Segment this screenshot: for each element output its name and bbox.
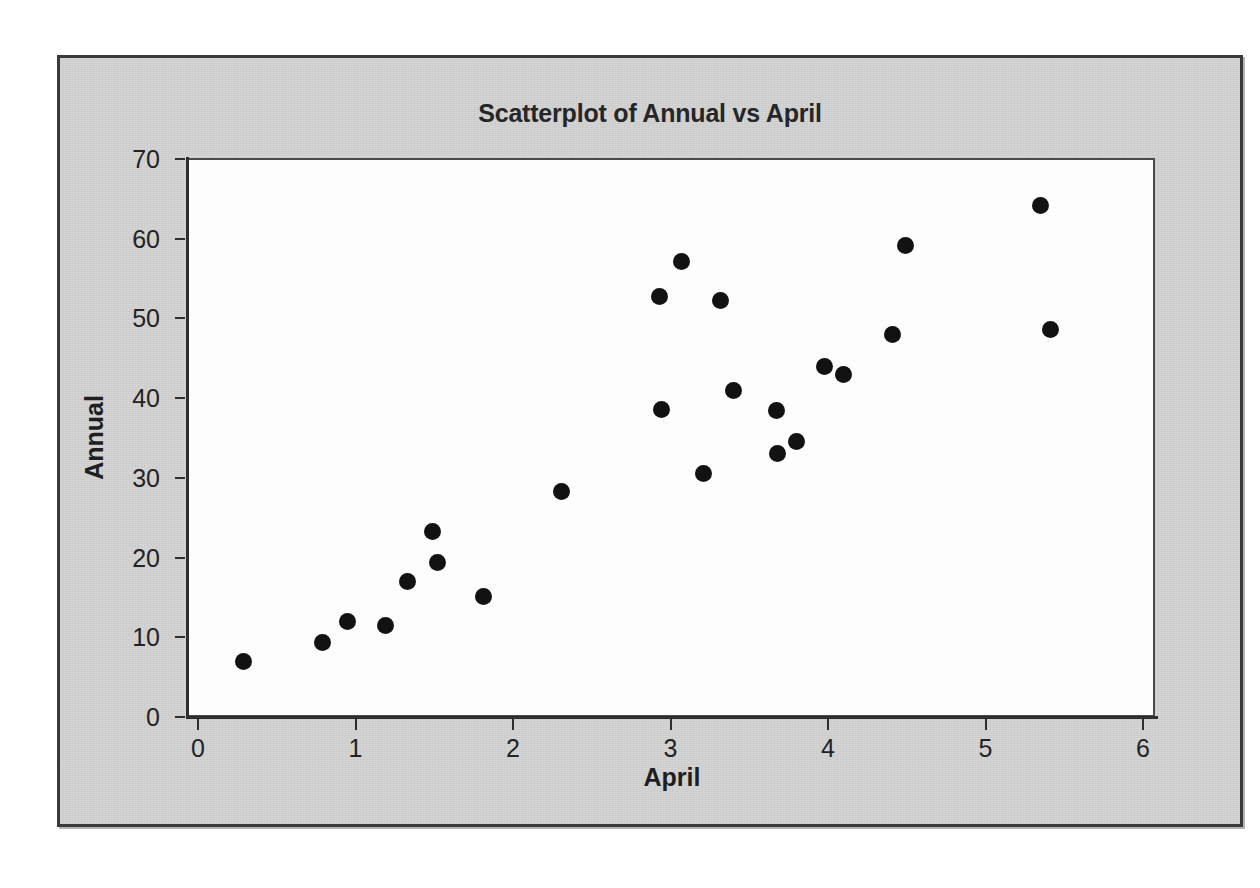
scatter-point <box>884 326 901 343</box>
scatter-point <box>835 366 852 383</box>
scatter-point <box>673 253 690 270</box>
y-axis-line <box>186 157 189 718</box>
x-tick-mark <box>985 719 987 730</box>
scatter-point <box>653 401 670 418</box>
y-tick-label: 50 <box>60 304 166 333</box>
scatter-point <box>725 382 742 399</box>
scatter-point <box>475 588 492 605</box>
y-tick-label: 0 <box>60 703 166 732</box>
scatter-point <box>769 445 786 462</box>
y-tick-label: 70 <box>60 145 166 174</box>
page-title: Scatterplot of Annual vs April <box>60 99 1240 128</box>
scatter-point <box>399 573 416 590</box>
x-tick-label: 6 <box>1136 734 1150 763</box>
x-tick-label: 1 <box>349 734 363 763</box>
scatter-point <box>377 617 394 634</box>
y-axis-title: Annual <box>80 395 109 480</box>
scatter-point <box>424 523 441 540</box>
x-tick-mark <box>670 719 672 730</box>
plot-area <box>186 158 1155 717</box>
scatter-point <box>897 237 914 254</box>
y-tick-label: 60 <box>60 224 166 253</box>
x-tick-label: 0 <box>191 734 205 763</box>
y-tick-mark <box>175 557 185 559</box>
scatter-point <box>1032 197 1049 214</box>
y-tick-label: 30 <box>60 463 166 492</box>
y-tick-mark <box>175 477 185 479</box>
y-tick-label: 20 <box>60 543 166 572</box>
scatter-point <box>429 554 446 571</box>
scatter-point <box>788 433 805 450</box>
x-tick-mark <box>1142 719 1144 730</box>
x-tick-mark <box>827 719 829 730</box>
x-tick-label: 5 <box>979 734 993 763</box>
y-tick-mark <box>175 397 185 399</box>
x-axis-line <box>186 716 1158 719</box>
x-tick-mark <box>197 719 199 730</box>
scatter-point <box>339 613 356 630</box>
y-tick-label: 10 <box>60 623 166 652</box>
x-axis-title: April <box>186 763 1158 792</box>
y-tick-mark <box>175 158 185 160</box>
x-tick-label: 3 <box>664 734 678 763</box>
x-tick-mark <box>355 719 357 730</box>
scatter-point <box>651 288 668 305</box>
y-tick-label: 40 <box>60 384 166 413</box>
y-tick-mark <box>175 716 185 718</box>
x-tick-label: 2 <box>506 734 520 763</box>
y-tick-mark <box>175 636 185 638</box>
scatter-point <box>1042 321 1059 338</box>
y-tick-mark <box>175 317 185 319</box>
screenshot-root: Scatterplot of Annual vs April 010203040… <box>0 0 1260 888</box>
scatter-point <box>816 358 833 375</box>
y-tick-mark <box>175 238 185 240</box>
x-tick-label: 4 <box>821 734 835 763</box>
scatter-point <box>235 653 252 670</box>
scatter-point <box>768 402 785 419</box>
graph-window-frame: Scatterplot of Annual vs April 010203040… <box>57 55 1243 827</box>
x-tick-mark <box>512 719 514 730</box>
